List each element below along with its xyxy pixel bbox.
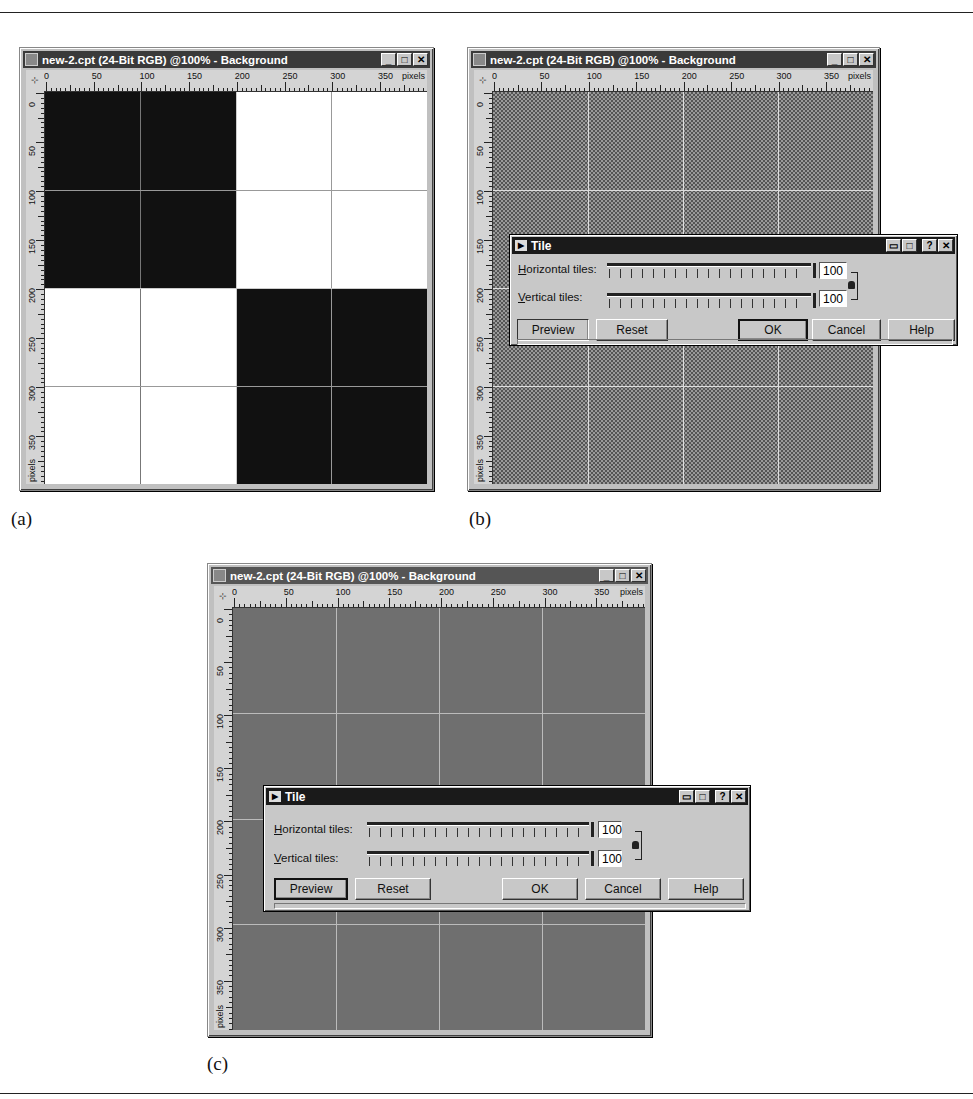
cancel-button[interactable]: Cancel <box>585 878 661 900</box>
ruler-label: 200 <box>475 288 485 303</box>
lock-icon[interactable] <box>632 841 639 849</box>
slider-thumb[interactable] <box>812 292 817 309</box>
ruler-unit-label: pixels <box>475 459 485 482</box>
cancel-button[interactable]: Cancel <box>812 319 881 341</box>
ruler-label: 300 <box>543 587 558 597</box>
grid-line <box>493 386 873 387</box>
ruler-label: 350 <box>824 71 839 81</box>
ruler-label: 150 <box>475 239 485 254</box>
ruler-label: 100 <box>475 190 485 205</box>
ruler-label: 50 <box>27 146 37 156</box>
vertical-ruler[interactable]: 050100150200250300350pixels <box>214 607 233 1030</box>
maximize-button[interactable]: □ <box>695 790 710 803</box>
ruler-unit-label: pixels <box>215 1005 225 1028</box>
preview-button[interactable]: Preview <box>517 319 589 341</box>
help-icon[interactable]: ? <box>715 790 730 803</box>
ruler-label: 300 <box>215 927 225 942</box>
ruler-label: 350 <box>475 435 485 450</box>
ruler-label: 350 <box>378 71 393 81</box>
ruler-label: 350 <box>215 980 225 995</box>
maximize-button[interactable]: □ <box>397 53 412 66</box>
horizontal-ruler[interactable]: 050100150200250300350pixels <box>44 70 427 92</box>
ruler-label: 0 <box>492 71 497 81</box>
close-button[interactable]: ✕ <box>859 53 874 66</box>
slider-thumb[interactable] <box>590 821 595 838</box>
ok-button[interactable]: OK <box>502 878 578 900</box>
horizontal-tiles-input[interactable]: 100 <box>598 821 622 838</box>
maximize-button[interactable]: □ <box>843 53 858 66</box>
ruler-label: 50 <box>284 587 294 597</box>
minimize-button[interactable]: _ <box>599 569 614 582</box>
ruler-label: 250 <box>475 337 485 352</box>
ruler-label: 250 <box>27 337 37 352</box>
ruler-origin-icon[interactable]: ⊹ <box>214 586 232 607</box>
reset-button[interactable]: Reset <box>355 878 431 900</box>
ruler-label: 0 <box>232 587 237 597</box>
ruler-label: 200 <box>215 820 225 835</box>
window-title: new-2.cpt (24-Bit RGB) @100% - Backgroun… <box>42 54 381 66</box>
close-button[interactable]: ✕ <box>938 239 953 252</box>
horizontal-tiles-slider[interactable] <box>607 262 817 280</box>
ruler-label: 50 <box>215 666 225 676</box>
preview-button[interactable]: Preview <box>274 878 348 900</box>
horizontal-tiles-input[interactable]: 100 <box>819 262 847 279</box>
app-icon <box>25 53 38 66</box>
help-button[interactable]: Help <box>668 878 744 900</box>
dialog-titlebar[interactable]: ▶ Tile ▭ □ ? ✕ <box>266 788 748 805</box>
close-button[interactable]: ✕ <box>731 790 746 803</box>
ruler-label: 300 <box>777 71 792 81</box>
ruler-label: 200 <box>682 71 697 81</box>
ruler-label: 0 <box>44 71 49 81</box>
tile-dialog: ▶ Tile ▭ □ ? ✕ Horizontal tiles: 100 Ver… <box>263 785 751 912</box>
horizontal-ruler[interactable]: 050100150200250300350pixels <box>232 586 645 608</box>
ruler-label: 0 <box>215 618 225 623</box>
minimize-button[interactable]: _ <box>827 53 842 66</box>
slider-thumb[interactable] <box>812 262 817 279</box>
vertical-tiles-input[interactable]: 100 <box>598 850 622 867</box>
ruler-label: 150 <box>187 71 202 81</box>
ruler-label: 250 <box>283 71 298 81</box>
vertical-ruler[interactable]: 050100150200250300350pixels <box>26 91 45 484</box>
maximize-button[interactable]: □ <box>902 239 917 252</box>
horizontal-ruler[interactable]: 050100150200250300350pixels <box>492 70 873 92</box>
grid-line <box>45 288 427 289</box>
vertical-tiles-slider[interactable] <box>367 850 595 868</box>
vertical-tiles-input[interactable]: 100 <box>819 290 847 307</box>
ruler-label: 100 <box>27 190 37 205</box>
maximize-button[interactable]: □ <box>615 569 630 582</box>
ruler-label: 150 <box>215 767 225 782</box>
roll-up-button[interactable]: ▭ <box>679 790 694 803</box>
ruler-label: 300 <box>330 71 345 81</box>
image-canvas[interactable] <box>45 92 427 484</box>
ruler-label: 200 <box>439 587 454 597</box>
vertical-ruler[interactable]: 050100150200250300350pixels <box>474 91 493 484</box>
ruler-origin-icon[interactable]: ⊹ <box>26 70 44 91</box>
ruler-origin-icon[interactable]: ⊹ <box>474 70 492 91</box>
ruler-label: 100 <box>587 71 602 81</box>
close-button[interactable]: ✕ <box>631 569 646 582</box>
window-titlebar[interactable]: new-2.cpt (24-Bit RGB) @100% - Backgroun… <box>471 51 876 68</box>
help-icon[interactable]: ? <box>922 239 937 252</box>
lock-icon[interactable] <box>848 281 855 289</box>
ruler-label: 200 <box>27 288 37 303</box>
horizontal-tiles-slider[interactable] <box>367 821 595 839</box>
ruler-unit-label: pixels <box>402 71 425 81</box>
grid-line <box>233 924 645 925</box>
dialog-titlebar[interactable]: ▶ Tile ▭ □ ? ✕ <box>512 237 955 254</box>
ruler-label: 100 <box>139 71 154 81</box>
ruler-label: 250 <box>215 874 225 889</box>
close-button[interactable]: ✕ <box>413 53 428 66</box>
slider-thumb[interactable] <box>590 850 595 867</box>
caption-c: (c) <box>207 1053 228 1075</box>
vertical-tiles-slider[interactable] <box>607 292 817 310</box>
window-titlebar[interactable]: new-2.cpt (24-Bit RGB) @100% - Backgroun… <box>211 567 648 584</box>
minimize-button[interactable]: _ <box>381 53 396 66</box>
play-arrow-icon: ▶ <box>515 240 527 251</box>
reset-button[interactable]: Reset <box>596 319 668 341</box>
window-title: new-2.cpt (24-Bit RGB) @100% - Backgroun… <box>230 570 599 582</box>
tile-dialog: ▶ Tile ▭ □ ? ✕ Horizontal tiles: 100 Ver… <box>509 234 958 346</box>
ok-button[interactable]: OK <box>738 319 808 341</box>
roll-up-button[interactable]: ▭ <box>886 239 901 252</box>
help-button[interactable]: Help <box>888 319 955 341</box>
window-titlebar[interactable]: new-2.cpt (24-Bit RGB) @100% - Backgroun… <box>23 51 430 68</box>
